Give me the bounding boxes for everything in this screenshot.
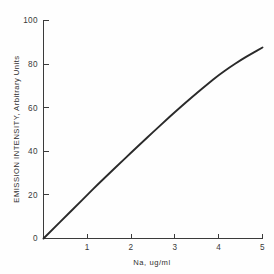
y-tick-label-60: 60 xyxy=(28,104,38,113)
x-tick-label-1: 1 xyxy=(85,243,90,252)
y-tick-label-100: 100 xyxy=(23,16,38,25)
chart-background xyxy=(0,0,274,274)
y-tick-label-0: 0 xyxy=(33,234,38,243)
x-tick-label-2: 2 xyxy=(129,243,134,252)
x-tick-label-5: 5 xyxy=(260,243,265,252)
x-tick-label-3: 3 xyxy=(172,243,177,252)
chart-figure: 0 20 40 60 80 100 1 2 3 4 5 Na, ug/ml EM… xyxy=(0,0,274,274)
y-tick-label-40: 40 xyxy=(28,147,38,156)
y-axis-title: EMISSION INTENSITY, Arbitrary Units xyxy=(12,55,21,202)
x-axis-title: Na, ug/ml xyxy=(133,258,170,267)
emission-intensity-chart: 0 20 40 60 80 100 1 2 3 4 5 Na, ug/ml EM… xyxy=(0,0,274,274)
x-tick-label-4: 4 xyxy=(216,243,221,252)
y-tick-label-80: 80 xyxy=(28,60,38,69)
y-tick-label-20: 20 xyxy=(28,191,38,200)
